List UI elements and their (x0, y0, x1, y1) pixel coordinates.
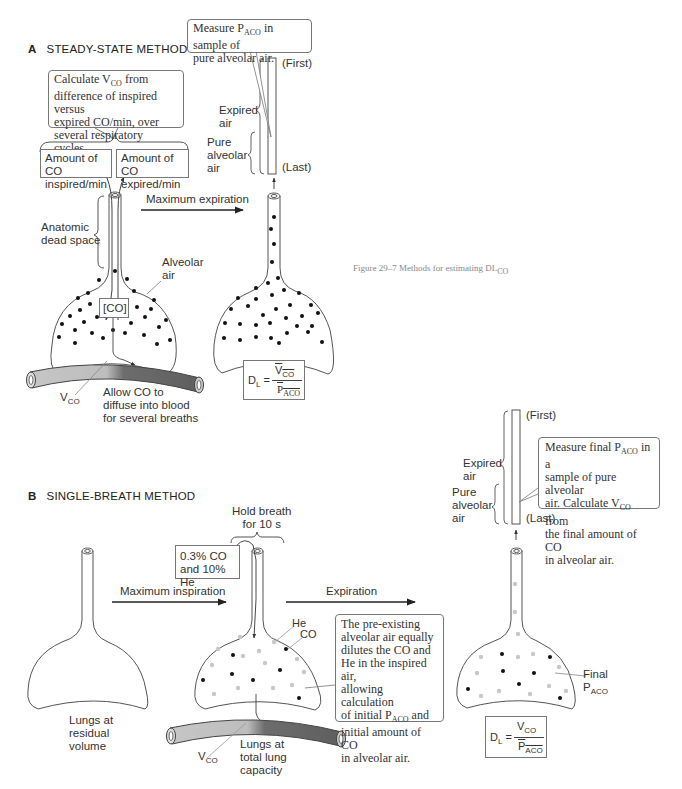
panel-a-title-text: STEADY-STATE METHOD (47, 43, 188, 55)
subscript: CO (497, 267, 508, 276)
text: = (505, 731, 511, 743)
formula-lhs: DL = (490, 731, 512, 746)
text: Anatomic (41, 221, 100, 234)
box-co-inspired: Amount of CO inspired/min (40, 149, 112, 178)
formula-dl-a: DL = VCO PACO (243, 360, 305, 400)
text: Lungs at (240, 738, 287, 751)
label-pure-alveolar-b: Pure alveolar air (452, 486, 492, 525)
lung-steady-state-1 (51, 192, 176, 375)
label-co: CO (300, 628, 317, 641)
box-co-concentration: [CO] (99, 298, 129, 318)
lung-steady-state-2 (214, 193, 334, 374)
formula-denominator: PACO (277, 383, 300, 400)
panel-b-title-text: SINGLE-BREATH METHOD (47, 490, 196, 502)
label-pure-alveolar-a: Pure alveolar air (207, 136, 247, 175)
text: in alveolar air. (341, 752, 438, 765)
text: residual (69, 727, 113, 740)
text: Pure (452, 486, 492, 499)
lung-after-expiration (457, 548, 576, 709)
text: He in the inspired air, (341, 657, 438, 683)
text: of initial P (341, 708, 392, 722)
text: air. Calculate V (545, 496, 620, 510)
text: the final amount of CO (545, 528, 653, 554)
formula-lhs: DL = (248, 374, 270, 389)
label-alveolar-air: Alveolar air (162, 256, 204, 282)
text: sample of pure alveolar (545, 471, 653, 497)
sample-tube-a (268, 58, 276, 174)
subscript: ACO (283, 389, 300, 398)
subscript: CO (524, 726, 536, 735)
text: Alveolar (162, 256, 204, 269)
label-maximum-expiration: Maximum expiration (146, 193, 249, 206)
text: Pure (207, 136, 247, 149)
text: allowing calculation (341, 683, 438, 709)
subscript: ACO (244, 28, 261, 37)
callout-calculate-vco: Calculate VCO from difference of inspire… (48, 70, 184, 128)
label-lungs-total-capacity: Lungs at total lung capacity (240, 738, 287, 777)
text: = (263, 374, 269, 386)
text: dead space (41, 234, 100, 247)
box-gas-mixture: 0.3% CO and 10% He (175, 545, 240, 579)
text: V (198, 750, 206, 762)
text: D (490, 731, 498, 743)
text: from (122, 72, 148, 86)
panel-a-letter: A (28, 43, 37, 55)
lung-residual-volume (28, 548, 148, 709)
text: air (219, 117, 258, 130)
text: Expired (463, 457, 502, 470)
subscript: ACO (525, 746, 542, 755)
panel-b-letter: B (28, 490, 37, 502)
panel-b-title: BSINGLE-BREATH METHOD (28, 490, 195, 502)
label-vco-b: VCO (198, 750, 218, 767)
text: in alveolar air. (545, 554, 653, 567)
text: initial amount of CO (341, 726, 438, 752)
text: Final (583, 668, 608, 681)
text: for several breaths (103, 412, 198, 425)
text: Expired (219, 104, 258, 117)
text: air (463, 470, 502, 483)
text: total lung (240, 751, 287, 764)
text: air (162, 269, 204, 282)
label-expiration: Expiration (326, 585, 377, 598)
label-last-a: (Last) (282, 161, 311, 174)
panel-a-title: ASTEADY-STATE METHOD (28, 43, 187, 55)
text: Calculate V (54, 72, 111, 86)
label-lungs-residual-volume: Lungs at residual volume (69, 714, 113, 753)
label-final-pa-co: Final PACO (583, 668, 608, 698)
callout-measure-final: Measure final PACO in a sample of pure a… (538, 437, 660, 509)
text: V (60, 391, 68, 403)
label-hold-breath: Hold breath for 10 s (232, 505, 291, 531)
text: air (452, 512, 492, 525)
subscript: ACO (621, 447, 638, 456)
text: diffuse into blood (103, 399, 198, 412)
formula-dl-b: DL = VCO PACO (485, 716, 547, 758)
fraction-bar (514, 737, 544, 738)
label-anatomic-dead-space: Anatomic dead space (41, 221, 100, 247)
formula-numerator: VCO (517, 720, 536, 735)
text: Figure 29–7 Methods for estimating DL (353, 263, 497, 273)
text: Lungs at (69, 714, 113, 727)
label-maximum-inspiration: Maximum inspiration (120, 585, 225, 598)
subscript: ACO (392, 715, 409, 724)
sample-tube-b (512, 410, 520, 524)
text: Hold breath (232, 505, 291, 518)
label-expired-air-b: Expired air (463, 457, 502, 483)
text: alveolar (207, 149, 247, 162)
formula-denominator: PACO (518, 740, 543, 755)
text: inspired/min (45, 178, 107, 191)
label-expired-air-a: Expired air (219, 104, 258, 130)
subscript: CO (620, 504, 631, 513)
formula-numerator: VCO (275, 364, 294, 379)
label-first-b: (First) (526, 409, 556, 422)
text: volume (69, 740, 113, 753)
label-allow-co-diffuse: Allow CO to diffuse into blood for sever… (103, 386, 198, 425)
fraction-bar (272, 380, 302, 381)
callout-measure-pa-co: Measure PACO in sample of pure alveolar … (187, 19, 312, 53)
text: Amount of CO (121, 152, 184, 178)
text: Measure P (193, 21, 244, 35)
text: 0.3% CO (180, 550, 235, 563)
text: capacity (240, 764, 287, 777)
subscript: CO (282, 370, 294, 379)
subscript: CO (68, 397, 80, 406)
label-first-a: (First) (282, 57, 312, 70)
